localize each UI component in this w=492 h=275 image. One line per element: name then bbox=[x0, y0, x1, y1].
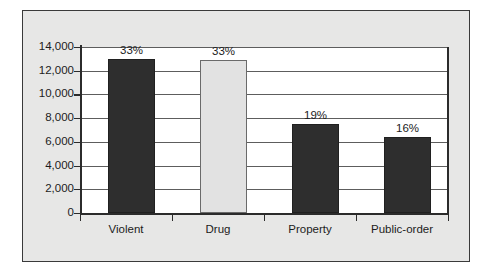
x-axis-label-property: Property bbox=[264, 224, 356, 236]
chart-figure: 02,0004,0006,0008,00010,00012,00014,000 … bbox=[0, 0, 492, 275]
x-axis-label-violent: Violent bbox=[80, 224, 172, 236]
x-axis-category-labels: ViolentDrugPropertyPublic-order bbox=[0, 0, 492, 275]
x-axis-label-public-order: Public-order bbox=[356, 224, 448, 236]
x-axis-label-drug: Drug bbox=[172, 224, 264, 236]
